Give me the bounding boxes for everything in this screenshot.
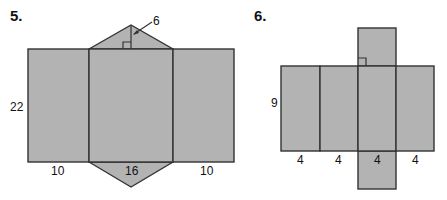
rect-face-4 (396, 66, 434, 151)
label-width-1: 4 (297, 153, 304, 167)
figure-6: 6. 9 4 4 4 4 (254, 7, 434, 189)
label-width-3: 4 (374, 153, 381, 167)
label-width-2: 4 (335, 153, 342, 167)
left-rect-face (28, 49, 89, 162)
figure-5: 5. 6 22 10 16 10 (10, 7, 234, 187)
top-square-face (358, 28, 396, 66)
prism-nets-diagram: 5. 6 22 10 16 10 6. 9 4 4 4 4 (0, 0, 447, 200)
label-height: 22 (10, 100, 24, 114)
figure-5-number: 5. (10, 7, 23, 24)
rect-face-2 (320, 66, 358, 151)
middle-rect-face (89, 49, 173, 162)
rect-face-1 (281, 66, 320, 151)
right-rect-face (173, 49, 234, 162)
figure-6-number: 6. (254, 7, 267, 24)
label-height: 9 (271, 96, 278, 110)
label-triangle-height: 6 (153, 14, 160, 28)
rect-face-3 (358, 66, 396, 151)
label-middle-width: 16 (125, 164, 139, 178)
label-right-width: 10 (200, 164, 214, 178)
label-left-width: 10 (51, 164, 65, 178)
label-width-4: 4 (412, 153, 419, 167)
